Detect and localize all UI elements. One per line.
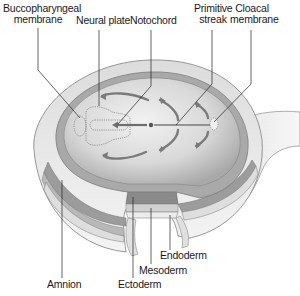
label-line: membrane: [230, 14, 274, 25]
label-notochord: Notochord: [130, 15, 174, 26]
label-primitive-streak: Primitive streak: [194, 3, 232, 25]
embryonic-disc-illustration: [0, 0, 300, 296]
label-line: streak: [194, 14, 232, 25]
label-neural-plate: Neural plate: [76, 15, 124, 26]
label-cloacal-membrane: Cloacal membrane: [230, 3, 274, 25]
cloacal-membrane-outline: [210, 118, 218, 130]
label-ectoderm: Ectoderm: [118, 279, 158, 290]
label-line: membrane: [3, 14, 73, 25]
label-mesoderm: Mesoderm: [139, 265, 183, 276]
label-endoderm: Endoderm: [160, 250, 202, 261]
primitive-node: [149, 123, 153, 127]
label-amnion: Amnion: [47, 279, 79, 290]
label-buccopharyngeal-membrane: Buccopharyngeal membrane: [3, 3, 73, 25]
